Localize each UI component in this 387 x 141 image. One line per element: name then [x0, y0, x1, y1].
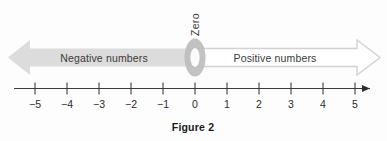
- tick-label: −1: [157, 98, 169, 110]
- tick-label: 2: [256, 98, 262, 110]
- zero-ring-marker: [185, 39, 206, 77]
- tick-label: 3: [288, 98, 294, 110]
- number-line-diagram: Negative numbers Positive numbers Zero −…: [0, 0, 387, 141]
- zero-ring-inner-hole: [190, 48, 199, 67]
- tick-label: −5: [29, 98, 41, 110]
- tick-label: −3: [93, 98, 105, 110]
- tick-label: 4: [320, 98, 326, 110]
- axis-right-arrowhead: [362, 85, 370, 92]
- number-line-figure: Negative numbers Positive numbers Zero −…: [0, 0, 387, 141]
- tick-label: 0: [192, 98, 198, 110]
- figure-caption: Figure 2: [172, 121, 214, 133]
- positive-numbers-label: Positive numbers: [234, 52, 317, 64]
- negative-numbers-label: Negative numbers: [60, 52, 148, 64]
- tick-label: 1: [224, 98, 230, 110]
- tick-label: −2: [125, 98, 137, 110]
- tick-label: 5: [352, 98, 358, 110]
- tick-labels: −5−4−3−2−1012345: [29, 98, 358, 110]
- zero-label: Zero: [189, 13, 201, 36]
- tick-label: −4: [61, 98, 73, 110]
